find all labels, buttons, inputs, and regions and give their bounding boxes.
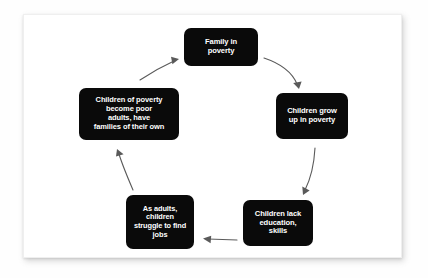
node-children-lack-education-skills[interactable]: Children lack education, skills [243,200,313,246]
node-label: Children grow up in poverty [283,107,341,125]
node-label: Children lack education, skills [251,210,305,237]
node-family-in-poverty[interactable]: Family in poverty [184,28,258,66]
node-label: Family in poverty [201,38,241,56]
node-children-grow-up-in-poverty[interactable]: Children grow up in poverty [276,93,348,139]
arrow-bottom-left [203,236,237,243]
cycle-of-poverty-diagram: Family in poverty Children grow up in po… [0,0,428,278]
node-label: As adults, children struggle to find job… [130,205,190,240]
node-as-adults-children-struggle-to-find-jobs[interactable]: As adults, children struggle to find job… [126,195,194,249]
node-label: Children of poverty become poor adults, … [90,96,168,131]
arrow-right-down [302,148,315,195]
arrow-top-left [140,57,179,80]
arrow-top-right [264,58,302,89]
arrow-left-up [116,149,133,190]
screenshot-canvas: Family in poverty Children grow up in po… [0,0,428,278]
node-children-of-poverty-become-poor-adults[interactable]: Children of poverty become poor adults, … [79,88,179,140]
